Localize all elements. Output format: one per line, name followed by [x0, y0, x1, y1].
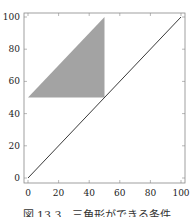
y-tick-label: 100	[3, 12, 20, 22]
y-tick-label: 0	[14, 173, 20, 183]
y-tick-label: 80	[9, 44, 21, 54]
x-tick-label: 20	[53, 188, 65, 198]
x-tick-label: 0	[25, 188, 31, 198]
figure-caption: 図 13.3 三角形ができる条件	[0, 206, 194, 217]
x-axis-tick-labels: 020406080100	[25, 188, 190, 198]
y-tick-label: 60	[9, 76, 21, 86]
x-tick-label: 80	[145, 188, 157, 198]
shaded-triangle	[28, 17, 105, 98]
y-tick-label: 20	[9, 141, 21, 151]
x-tick-label: 100	[172, 188, 189, 198]
x-tick-label: 40	[83, 188, 95, 198]
x-tick-label: 60	[114, 188, 126, 198]
y-axis-tick-labels: 020406080100	[3, 12, 20, 183]
chart: 020406080100 020406080100	[0, 0, 194, 217]
y-tick-label: 40	[9, 109, 21, 119]
